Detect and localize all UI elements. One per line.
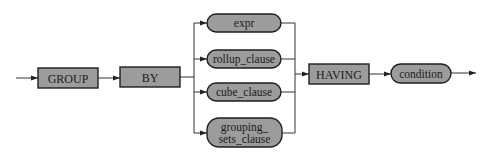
arrow-icon [302, 72, 309, 77]
arrow-icon [469, 71, 476, 76]
having-to-condition-connector [369, 72, 391, 77]
arrow-icon [200, 90, 207, 95]
option-rollup-clause-label: rollup_clause [213, 53, 275, 66]
keyword-having: HAVING [309, 64, 369, 84]
keyword-having-label: HAVING [316, 68, 362, 82]
option-cube-clause-label: cube_clause [216, 86, 272, 98]
arrow-icon [200, 57, 207, 62]
arrow-icon [384, 72, 391, 77]
option-grouping-sets-clause-label-line2: sets_clause [219, 133, 271, 145]
group-by-syntax-diagram: GROUP BY expr rollup_clause cube_clause [0, 0, 486, 161]
arrow-icon [113, 76, 120, 81]
keyword-by-label: BY [142, 71, 159, 85]
arrow-icon [200, 21, 207, 26]
option-expr: expr [207, 14, 281, 32]
terminal-condition-label: condition [399, 68, 443, 80]
group-to-by-connector [98, 76, 120, 81]
option-grouping-sets-clause: grouping_ sets_clause [207, 118, 282, 147]
keyword-group-label: GROUP [48, 72, 89, 86]
branch-merge-connector [281, 23, 309, 133]
option-grouping-sets-clause-label-line1: grouping_ [221, 121, 269, 134]
option-rollup-clause: rollup_clause [207, 50, 281, 68]
keyword-group: GROUP [38, 68, 98, 88]
option-cube-clause: cube_clause [207, 83, 281, 101]
terminal-condition: condition [391, 64, 451, 83]
exit-connector [451, 71, 476, 76]
entry-connector [16, 76, 38, 81]
branch-split-connector [180, 21, 207, 136]
option-expr-label: expr [234, 17, 255, 30]
arrow-icon [31, 76, 38, 81]
arrow-icon [200, 131, 207, 136]
keyword-by: BY [120, 67, 180, 87]
